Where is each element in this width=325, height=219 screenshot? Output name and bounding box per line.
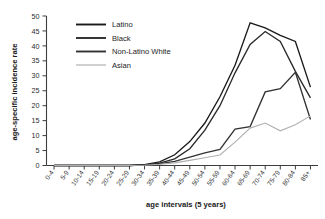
y-tick-label: 10 — [32, 131, 40, 140]
x-tick-label: 85+ — [299, 169, 311, 182]
y-tick-label: 40 — [32, 42, 40, 51]
x-axis-title: age intervals (5 years) — [146, 200, 226, 209]
y-tick-label: 35 — [32, 56, 40, 65]
y-tick-label: 50 — [32, 12, 40, 21]
series-lines — [54, 23, 310, 166]
x-tick-label: 40-44 — [160, 169, 176, 187]
x-tick-label: 25-29 — [115, 169, 131, 187]
x-tick-label: 65-69 — [236, 169, 252, 187]
legend-label-asian: Asian — [112, 61, 131, 70]
y-tick-label: 15 — [32, 116, 40, 125]
x-tick-label: 0-4 — [44, 169, 55, 181]
x-tick-label: 5-9 — [59, 169, 70, 181]
x-tick-label: 15-19 — [85, 169, 101, 187]
x-tick-label: 50-54 — [190, 169, 206, 187]
x-tick-label: 20-24 — [100, 169, 116, 187]
y-axis-title: age-specific incidence rate — [10, 43, 19, 140]
x-tick-label: 70-74 — [251, 169, 267, 187]
line-chart: 05101520253035404550 0-45-910-1415-1920-… — [0, 0, 325, 219]
x-tick-label: 35-39 — [145, 169, 161, 187]
legend-label-non-latino-white: Non-Latino White — [112, 47, 171, 56]
y-tick-label: 30 — [32, 71, 40, 80]
chart-figure: 05101520253035404550 0-45-910-1415-1920-… — [0, 0, 325, 219]
x-tick-label: 80-84 — [281, 169, 297, 187]
series-line-asian — [54, 116, 310, 166]
x-axis: 0-45-910-1415-1920-2425-2930-3435-3940-4… — [44, 166, 312, 187]
x-tick-label: 75-79 — [266, 169, 282, 187]
y-tick-label: 45 — [32, 27, 40, 36]
series-line-latino — [54, 23, 310, 166]
x-tick-label: 60-64 — [220, 169, 236, 187]
y-tick-label: 0 — [36, 161, 40, 170]
x-tick-label: 30-34 — [130, 169, 146, 187]
x-tick-label: 10-14 — [70, 169, 86, 187]
series-line-non-latino-white — [54, 72, 310, 165]
x-tick-label: 55-59 — [205, 169, 221, 187]
y-tick-label: 5 — [36, 146, 40, 155]
legend-label-latino: Latino — [112, 20, 133, 29]
legend-label-black: Black — [112, 34, 131, 43]
y-axis: 05101520253035404550 — [32, 12, 47, 171]
chart-legend: LatinoBlackNon-Latino WhiteAsian — [76, 20, 171, 69]
y-tick-label: 25 — [32, 86, 40, 95]
y-tick-label: 20 — [32, 101, 40, 110]
x-tick-label: 45-49 — [175, 169, 191, 187]
